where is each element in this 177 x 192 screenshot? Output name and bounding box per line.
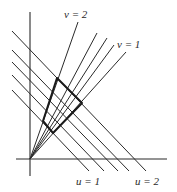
v-line-2 [30,38,107,159]
axes [16,12,167,176]
u-line-3 [12,75,104,171]
label-v-1: v = 1 [117,38,140,50]
label-u-2: u = 2 [135,175,159,187]
diagram-canvas: v = 2 v = 1 u = 1 u = 2 [0,0,177,192]
label-v-2: v = 2 [64,8,88,20]
v-radial-lines [30,22,126,159]
label-u-1: u = 1 [76,175,100,187]
